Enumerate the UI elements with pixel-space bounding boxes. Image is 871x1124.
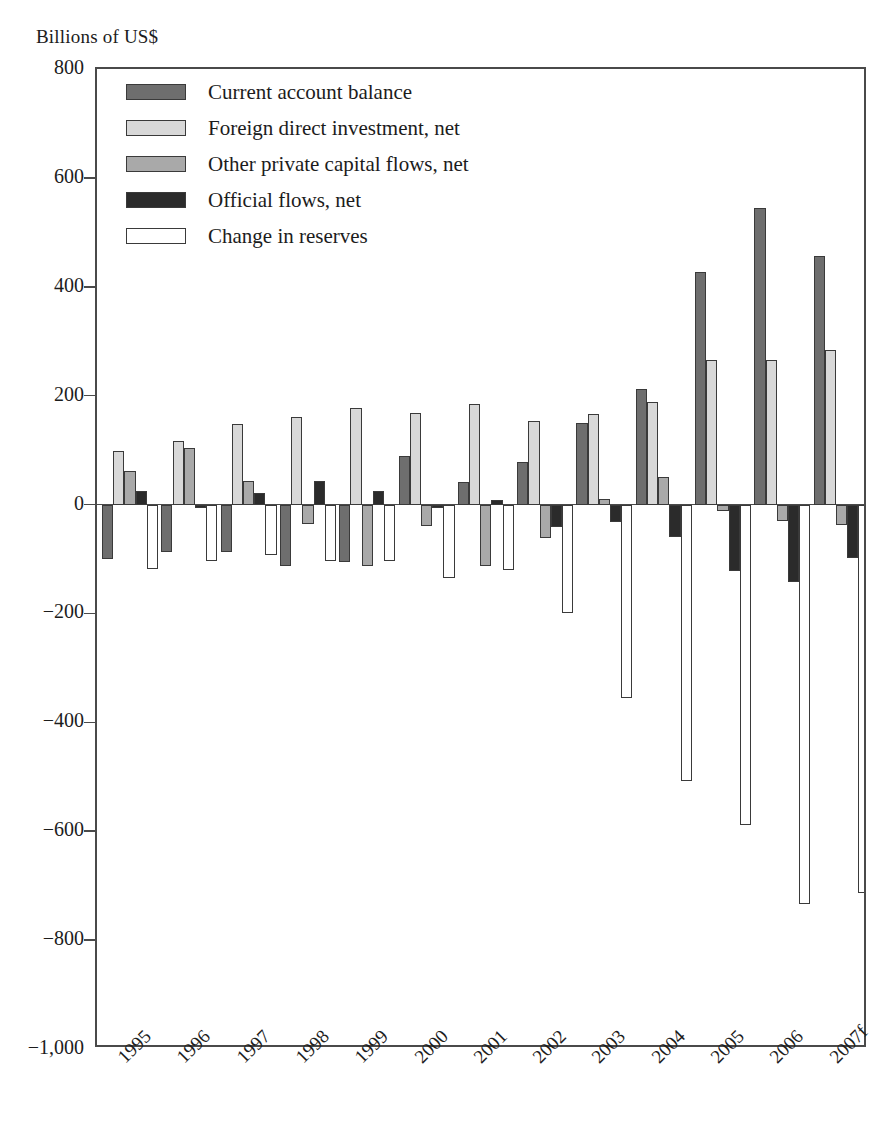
bar [825,350,836,504]
bar [161,505,172,553]
bar [443,505,454,578]
bar [206,505,217,562]
bar [576,423,587,505]
bar [814,256,825,504]
bar [669,505,680,538]
bar [362,505,373,566]
y-axis-unit-label: Billions of US$ [36,26,158,48]
bar [528,421,539,505]
bar [729,505,740,571]
bar [280,505,291,567]
bar [599,499,610,505]
bar [384,505,395,562]
legend-label: Current account balance [208,82,412,103]
legend-label: Change in reserves [208,226,368,247]
legend-item: Change in reserves [126,223,469,249]
y-axis-tick-label: 400 [54,275,84,295]
chart-legend: Current account balanceForeign direct in… [126,79,469,249]
bar [339,505,350,562]
bar [788,505,799,583]
legend-swatch-icon [126,156,186,172]
legend-label: Foreign direct investment, net [208,118,460,139]
bar [136,491,147,504]
bar [621,505,632,698]
bar [836,505,847,526]
y-axis-tick [84,722,97,724]
y-axis-tick [84,939,97,941]
legend-label: Other private capital flows, net [208,154,469,175]
y-axis-tick-label: 200 [54,384,84,404]
bar [325,505,336,561]
y-axis-tick [84,177,97,179]
y-axis-tick [84,286,97,288]
bar [647,402,658,505]
legend-label: Official flows, net [208,190,361,211]
legend-item: Foreign direct investment, net [126,115,469,141]
bar [551,505,562,528]
bar [195,505,206,508]
bar [740,505,751,825]
bar [517,462,528,504]
bar [221,505,232,552]
bar [373,491,384,505]
bar [847,505,858,559]
y-axis-tick-label: 0 [74,493,84,513]
bar [610,505,621,522]
bar [766,360,777,505]
y-axis-tick [84,613,97,615]
legend-item: Current account balance [126,79,469,105]
bar [695,272,706,504]
bar [421,505,432,527]
y-axis-tick-label: −800 [43,928,84,948]
bar [265,505,276,556]
bar [706,360,717,505]
bar [113,451,124,505]
y-axis-tick-labels: 8006004002000−200−400−600−800−1,000 [0,67,84,1047]
y-axis-tick [84,395,97,397]
bar [458,482,469,505]
legend-swatch-icon [126,228,186,244]
legend-item: Official flows, net [126,187,469,213]
bar [232,424,243,505]
bar [124,471,135,505]
bar [588,414,599,504]
x-axis-tick-labels: 1995199619971998199920002001200220032004… [95,1047,866,1124]
bar [681,505,692,782]
bar [717,505,728,512]
bar [469,404,480,505]
bar [243,481,254,504]
bar [184,448,195,505]
bar [102,505,113,559]
bar [410,413,421,505]
bar [799,505,810,904]
legend-swatch-icon [126,120,186,136]
bar [754,208,765,505]
bar [350,408,361,505]
bar [562,505,573,614]
y-axis-tick-label: −400 [43,710,84,730]
bar [491,500,502,505]
bar [302,505,313,524]
y-axis-tick [84,504,97,506]
bar [858,505,864,893]
bar [480,505,491,567]
bar [432,505,443,509]
bar [503,505,514,570]
bar [777,505,788,521]
y-axis-tick-label: −1,000 [28,1037,84,1057]
legend-item: Other private capital flows, net [126,151,469,177]
bar [314,481,325,505]
bar [658,477,669,504]
y-axis-tick-label: 600 [54,166,84,186]
legend-swatch-icon [126,192,186,208]
bar [399,456,410,505]
bar [636,389,647,505]
y-axis-tick [84,830,97,832]
legend-swatch-icon [126,84,186,100]
bar [254,493,265,505]
bar [173,441,184,505]
y-axis-tick-label: −600 [43,819,84,839]
y-axis-tick-label: −200 [43,601,84,621]
bar [147,505,158,569]
